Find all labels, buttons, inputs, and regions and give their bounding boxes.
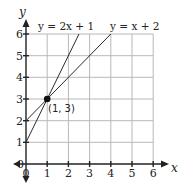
x-tick-label: 1	[44, 167, 51, 180]
x-tick-label: 4	[107, 167, 114, 180]
y-tick-label: 1	[16, 136, 23, 149]
axes	[13, 19, 169, 183]
y-tick-labels: 0 1 2 3 4 5 6	[16, 28, 24, 171]
x-axis-right-arrow-icon	[161, 161, 169, 168]
line-label-y-2x-plus-1: y = 2x + 1	[37, 20, 94, 32]
y-tick-label: 5	[16, 50, 23, 63]
y-tick-label: 4	[16, 71, 23, 84]
line-label-y-x-plus-2: y = x + 2	[109, 20, 159, 32]
x-tick-label: 3	[86, 167, 93, 180]
intersection-point	[44, 96, 51, 103]
x-tick-labels: 0 1 2 3 4 5 6	[23, 167, 157, 180]
x-tick-label: 2	[65, 167, 72, 180]
coordinate-plane: y x 0 1 2 3 4 5 6 0 1 2 3 4 5 6 y = 2x +…	[0, 0, 187, 195]
line-y-2x-plus-1	[26, 34, 79, 142]
y-axis-label: y	[18, 5, 26, 19]
y-tick-label: 6	[16, 28, 23, 41]
x-tick-label: 0	[23, 167, 30, 180]
y-tick-label: 3	[16, 93, 23, 106]
x-axis-label: x	[171, 161, 178, 175]
x-tick-label: 6	[150, 167, 157, 180]
y-tick-label: 2	[16, 115, 23, 128]
y-axis-up-arrow-icon	[23, 19, 30, 27]
x-tick-label: 5	[129, 167, 136, 180]
intersection-label: (1, 3)	[48, 103, 75, 114]
